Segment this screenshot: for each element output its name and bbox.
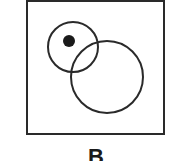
universe-frame (27, 1, 164, 134)
venn-diagram (0, 0, 173, 161)
diagram-label: B (0, 146, 173, 161)
large-circle (71, 41, 143, 113)
point-dot (63, 35, 75, 47)
